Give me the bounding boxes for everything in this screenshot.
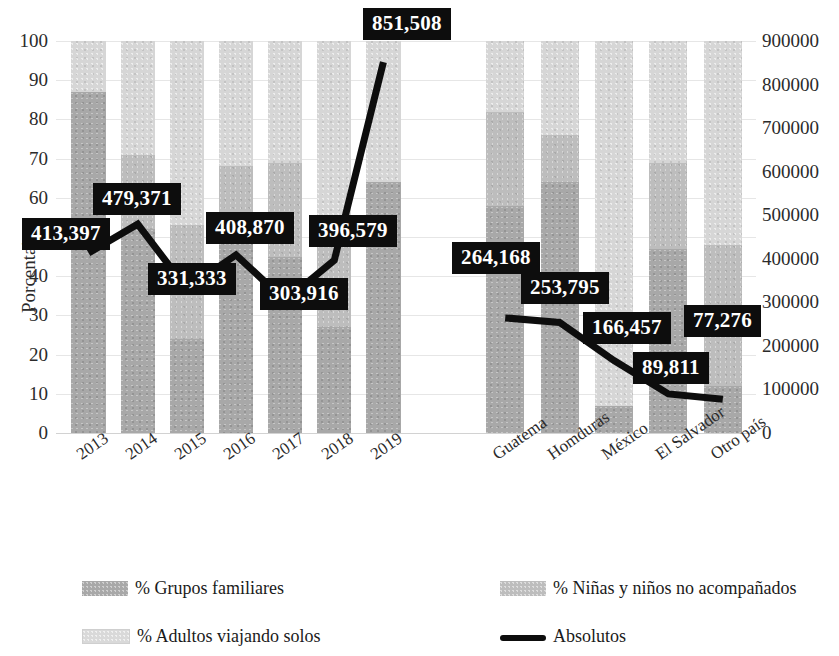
legend-label-grupos-familiares: % Grupos familiares bbox=[135, 578, 284, 599]
data-label: 413,397 bbox=[22, 218, 110, 250]
bar-segment bbox=[170, 339, 204, 433]
bar bbox=[486, 41, 524, 433]
y-axis-right-tick: 700000 bbox=[762, 118, 839, 137]
y-axis-right-tick: 300000 bbox=[762, 292, 839, 311]
data-label: 479,371 bbox=[93, 183, 181, 215]
bar-segment bbox=[541, 135, 579, 182]
bar-segment bbox=[219, 41, 253, 166]
data-label: 851,508 bbox=[363, 8, 451, 40]
bar-segment bbox=[71, 92, 105, 433]
bar-segment bbox=[541, 182, 579, 433]
y-axis-left-tick: 70 bbox=[2, 149, 48, 168]
y-axis-left-tick: 100 bbox=[2, 31, 48, 50]
legend-item-ninas-ninos: % Niñas y niños no acompañados bbox=[500, 578, 796, 599]
y-axis-left-tick: 40 bbox=[2, 266, 48, 285]
legend-item-adultos-solos: % Adultos viajando solos bbox=[82, 626, 321, 647]
legend-swatch-adultos-solos bbox=[82, 629, 130, 644]
data-label: 303,916 bbox=[260, 278, 348, 310]
data-label: 331,333 bbox=[148, 263, 236, 295]
y-axis-right-tick: 200000 bbox=[762, 336, 839, 355]
y-axis-left-tick: 60 bbox=[2, 188, 48, 207]
bar bbox=[704, 41, 742, 433]
y-axis-right-tick: 600000 bbox=[762, 162, 839, 181]
legend-item-grupos-familiares: % Grupos familiares bbox=[82, 578, 284, 599]
bar-segment bbox=[486, 112, 524, 206]
data-label: 77,276 bbox=[684, 305, 761, 337]
bar-segment bbox=[121, 229, 155, 433]
y-axis-right-tick: 800000 bbox=[762, 75, 839, 94]
y-axis-right-tick: 900000 bbox=[762, 31, 839, 50]
bar-segment bbox=[704, 41, 742, 245]
y-axis-left-tick: 30 bbox=[2, 305, 48, 324]
bar bbox=[541, 41, 579, 433]
data-label: 264,168 bbox=[452, 242, 540, 274]
data-label: 166,457 bbox=[583, 312, 671, 344]
legend-swatch-absolutos bbox=[500, 629, 546, 644]
data-label: 408,870 bbox=[206, 212, 294, 244]
legend-swatch-grupos-familiares bbox=[82, 581, 128, 596]
legend-item-absolutos: Absolutos bbox=[500, 626, 626, 647]
y-axis-left-tick: 10 bbox=[2, 384, 48, 403]
data-label: 253,795 bbox=[521, 272, 609, 304]
bar bbox=[595, 41, 633, 433]
bar-segment bbox=[649, 163, 687, 249]
y-axis-right-tick: 400000 bbox=[762, 249, 839, 268]
y-axis-right-tick: 500000 bbox=[762, 205, 839, 224]
bar bbox=[170, 41, 204, 433]
bar-segment bbox=[71, 41, 105, 92]
bar-segment bbox=[366, 41, 400, 182]
legend-label-ninas-ninos: % Niñas y niños no acompañados bbox=[553, 578, 796, 599]
bar-segment bbox=[121, 41, 155, 155]
bar-segment bbox=[268, 41, 302, 163]
bar-segment bbox=[317, 327, 351, 433]
bar-segment bbox=[595, 41, 633, 406]
data-label: 89,811 bbox=[633, 352, 709, 384]
y-axis-left-tick: 90 bbox=[2, 70, 48, 89]
bar-segment bbox=[649, 41, 687, 163]
y-axis-right-tick: 100000 bbox=[762, 379, 839, 398]
y-axis-left-tick: 0 bbox=[2, 423, 48, 442]
bar bbox=[121, 41, 155, 433]
y-axis-left-tick: 80 bbox=[2, 109, 48, 128]
bar-segment bbox=[486, 206, 524, 433]
y-axis-left-tick: 20 bbox=[2, 345, 48, 364]
bar-segment bbox=[541, 41, 579, 135]
data-label: 396,579 bbox=[309, 215, 397, 247]
bar-segment bbox=[486, 41, 524, 112]
legend-swatch-ninas-ninos bbox=[500, 581, 546, 596]
y-axis-right-tick: 0 bbox=[762, 423, 839, 442]
legend-label-absolutos: Absolutos bbox=[553, 626, 626, 647]
chart-container: Porcentaje 1009080706050403020100 900000… bbox=[0, 0, 839, 656]
legend-label-adultos-solos: % Adultos viajando solos bbox=[137, 626, 321, 647]
